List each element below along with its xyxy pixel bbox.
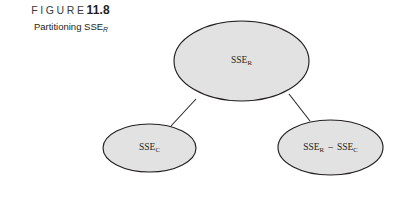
node-root-subscript: R — [247, 59, 252, 66]
node-root-base: SSE — [231, 55, 248, 65]
edge-root-to-left — [171, 99, 196, 126]
node-right-subscript-second: C — [353, 145, 358, 152]
node-right-base-first: SSE — [303, 142, 320, 152]
node-right-label: SSER–SSEC — [303, 142, 358, 152]
node-left-subscript: C — [155, 146, 160, 153]
node-right-operator: – — [327, 142, 333, 152]
edge-root-to-right — [289, 94, 310, 121]
node-left: SSEC — [103, 124, 196, 172]
node-left-base: SSE — [139, 142, 156, 152]
node-right-base-second: SSE — [337, 142, 354, 152]
partitioning-tree-diagram: SSER SSEC SSER–SSEC — [0, 0, 403, 197]
figure-container: FIGURE11.8 Partitioning SSER SSER SSEC — [0, 0, 403, 197]
node-right: SSER–SSEC — [278, 120, 383, 175]
node-root: SSER — [174, 21, 309, 101]
node-right-subscript-first: R — [320, 145, 325, 152]
